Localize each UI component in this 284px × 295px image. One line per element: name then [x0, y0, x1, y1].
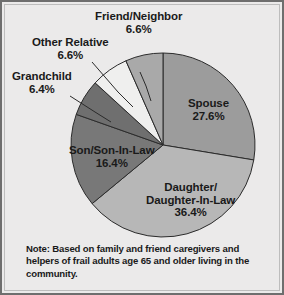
slice-label-daughter-line2: Daughter-In-Law [146, 194, 235, 207]
slice-label-other-relative-pct: 6.6% [32, 49, 109, 62]
slice-label-other-relative-name: Other Relative [32, 36, 109, 48]
slice-label-daughter-line1: Daughter/ [164, 181, 217, 193]
slice-label-grandchild: Grandchild 6.4% [12, 70, 72, 95]
slice-label-spouse-name: Spouse [188, 97, 229, 109]
slice-label-spouse-pct: 27.6% [188, 110, 229, 123]
chart-note: Note: Based on family and friend caregiv… [26, 243, 262, 280]
slice-label-grandchild-pct: 6.4% [12, 83, 72, 96]
slice-label-son-son-in-law-pct: 16.4% [69, 157, 154, 170]
slice-label-son-son-in-law: Son/Son-In-Law 16.4% [69, 144, 154, 169]
slice-label-friend-neighbor-pct: 6.6% [95, 23, 182, 36]
slice-label-daughter-daughter-in-law: Daughter/ Daughter-In-Law 36.4% [146, 181, 235, 219]
slice-label-friend-neighbor: Friend/Neighbor 6.6% [95, 10, 182, 35]
slice-label-other-relative: Other Relative 6.6% [32, 36, 109, 61]
slice-label-daughter-pct: 36.4% [146, 206, 235, 219]
slice-label-spouse: Spouse 27.6% [188, 97, 229, 122]
pie-chart-figure: Friend/Neighbor 6.6% Other Relative 6.6%… [0, 0, 284, 295]
slice-label-son-son-in-law-name: Son/Son-In-Law [69, 144, 154, 156]
slice-label-friend-neighbor-name: Friend/Neighbor [95, 10, 182, 22]
slice-label-grandchild-name: Grandchild [12, 70, 72, 82]
